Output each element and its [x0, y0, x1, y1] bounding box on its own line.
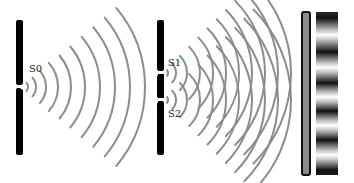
wavefront-arc	[172, 91, 176, 109]
wavefront-arc	[40, 71, 46, 103]
wavefront-arc	[27, 83, 28, 91]
double-slit-diagram: S0 S1 S2	[0, 0, 354, 183]
barrier-lower-segment	[16, 88, 23, 155]
wavefront-arc	[32, 78, 36, 97]
slit-wavefronts	[167, 0, 291, 183]
label-s2: S2	[168, 108, 181, 119]
barrier-middle-segment	[157, 74, 164, 98]
wavefront-arc	[60, 56, 71, 119]
wavefront-arc	[70, 47, 85, 128]
detection-screen	[302, 12, 310, 175]
diagram-canvas: S0 S1 S2	[0, 0, 354, 183]
slit-s2-notch	[153, 97, 158, 103]
wavefront-arc	[105, 18, 130, 157]
wavefront-arc	[208, 28, 226, 117]
slit-s1-notch	[153, 70, 158, 76]
label-s0: S0	[29, 63, 42, 74]
single-slit-barrier	[16, 20, 23, 155]
wavefront-arc	[167, 70, 168, 76]
wavefront-arc	[93, 27, 115, 147]
label-s1: S1	[168, 57, 181, 68]
barrier-upper-segment	[157, 20, 164, 71]
interference-fringe-pattern	[316, 12, 338, 175]
barrier-upper-segment	[16, 20, 23, 85]
wavefront-arc	[208, 55, 226, 144]
wavefront-arc	[167, 97, 168, 103]
double-slit-barrier	[153, 20, 164, 155]
barrier-lower-segment	[157, 101, 164, 155]
source-wavefronts	[27, 8, 145, 166]
wavefront-arc	[49, 63, 58, 111]
